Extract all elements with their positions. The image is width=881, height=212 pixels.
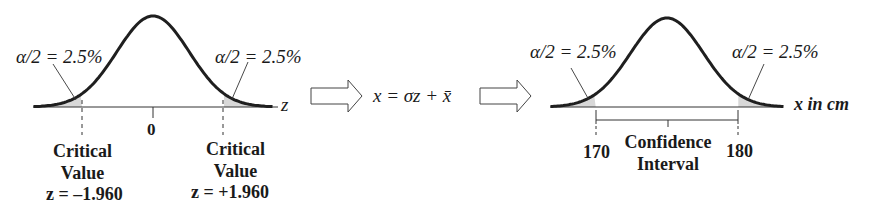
- value-label: Value: [35, 162, 130, 184]
- alpha-label-left: α/2 = 2.5%: [530, 41, 617, 63]
- critical-label: Critical: [188, 138, 283, 160]
- critical-label: Critical: [35, 140, 130, 162]
- alpha-label-right: α/2 = 2.5%: [732, 41, 819, 63]
- z-axis-label: z: [281, 94, 288, 116]
- alpha-label-right: α/2 = 2.5%: [215, 46, 302, 68]
- alpha-pointer-left: [571, 68, 589, 100]
- alpha-pointer-left: [53, 64, 76, 100]
- left-normal-plot: [33, 16, 278, 135]
- right-arrow-icon: [480, 80, 531, 112]
- diagram-stage: α/2 = 2.5% α/2 = 2.5% z 0 Critical Value…: [0, 0, 881, 212]
- right-arrow-icon: [311, 80, 362, 112]
- value-label: Value: [188, 160, 283, 182]
- interval-label: Interval: [618, 153, 718, 175]
- confidence-interval-label: Confidence Interval: [618, 131, 718, 175]
- right-normal-plot: [550, 18, 784, 138]
- x-axis-label: x in cm: [794, 94, 849, 115]
- confidence-label: Confidence: [618, 131, 718, 153]
- alpha-pointer-right: [748, 64, 764, 100]
- transform-formula: x = σz + x̄: [373, 85, 451, 107]
- ci-lower-bound: 170: [583, 142, 610, 163]
- critical-value-left: Critical Value: [35, 140, 130, 184]
- zero-tick-label: 0: [147, 120, 156, 140]
- alpha-label-left: α/2 = 2.5%: [16, 46, 103, 68]
- critical-value-right: Critical Value: [188, 138, 283, 182]
- critical-z-left: z = –1.960: [46, 184, 123, 205]
- critical-z-right: z = +1.960: [191, 182, 269, 203]
- x-axis-label-text: x in cm: [794, 94, 849, 114]
- ci-upper-bound: 180: [726, 141, 753, 162]
